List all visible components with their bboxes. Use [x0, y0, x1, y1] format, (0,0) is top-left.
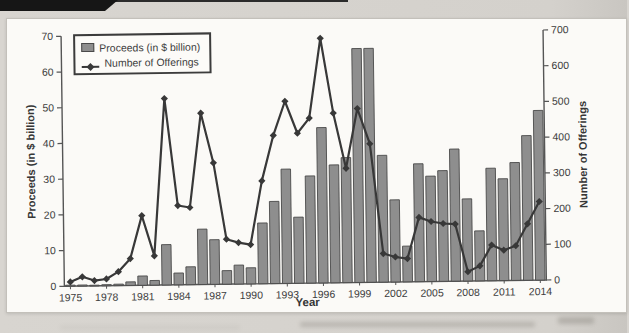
left-tick-label: 10: [44, 244, 56, 256]
proceeds-bar: [510, 162, 521, 280]
right-tick-label: 500: [552, 95, 570, 107]
right-axis-title: Number of Offerings: [576, 89, 590, 219]
legend-entry-offerings: Number of Offerings: [81, 53, 203, 70]
proceeds-bar: [258, 223, 268, 284]
x-tick-label: 1984: [167, 290, 191, 302]
proceeds-bar: [102, 285, 112, 286]
offerings-marker: [138, 212, 145, 219]
left-tick-label: 70: [41, 30, 53, 42]
proceeds-bar: [281, 169, 292, 283]
proceeds-bar: [498, 179, 509, 281]
left-tick-label: 40: [43, 137, 55, 149]
proceeds-bar: [138, 276, 148, 285]
x-tick-label: 1978: [95, 291, 119, 303]
x-tick-label: 2014: [529, 285, 553, 297]
right-axis-ticks: 0100200300400500600700: [543, 23, 572, 285]
offerings-marker: [270, 132, 277, 139]
x-tick-label: 1981: [131, 290, 155, 302]
proceeds-bar: [78, 285, 88, 286]
offerings-marker: [91, 277, 98, 284]
proceeds-bar: [522, 136, 533, 281]
proceeds-bar: [403, 246, 413, 282]
proceeds-bar: [269, 201, 280, 283]
x-tick-label: 1987: [203, 289, 227, 301]
legend-label-proceeds: Proceeds (in $ billion): [99, 40, 200, 53]
right-tick-label: 0: [554, 273, 560, 285]
offerings-marker: [174, 202, 181, 209]
offerings-marker: [281, 98, 288, 105]
left-tick-label: 60: [42, 66, 54, 78]
proceeds-bar: [150, 280, 160, 285]
right-tick-label: 300: [553, 166, 571, 178]
proceeds-bar: [329, 165, 340, 283]
blurred-caption-remnant: [300, 322, 535, 327]
offerings-marker: [197, 109, 204, 116]
proceeds-bar: [305, 176, 316, 283]
proceeds-bar: [114, 284, 124, 286]
left-tick-label: 30: [43, 173, 55, 185]
left-tick-label: 50: [42, 101, 54, 113]
x-tick-label: 2005: [420, 286, 444, 298]
offerings-marker: [79, 273, 86, 280]
proceeds-bar: [186, 267, 196, 285]
proceeds-bar: [162, 245, 172, 285]
proceeds-bar: [449, 149, 460, 281]
offerings-marker: [223, 236, 230, 243]
offerings-marker: [67, 278, 74, 285]
offerings-marker: [330, 109, 337, 116]
proceeds-bar: [317, 128, 329, 283]
proceeds-bar: [234, 265, 244, 284]
proceeds-bar: [341, 158, 352, 283]
right-tick-label: 200: [553, 202, 571, 214]
legend-label-offerings: Number of Offerings: [104, 55, 199, 68]
x-tick-label: 2008: [456, 286, 480, 298]
legend-entry-proceeds: Proceeds (in $ billion): [81, 38, 203, 55]
blurred-caption-remnant: [60, 326, 240, 329]
proceeds-bar: [364, 48, 377, 282]
proceeds-bars-series: [63, 46, 545, 286]
offerings-marker: [317, 35, 324, 42]
left-tick-label: 20: [44, 208, 56, 220]
left-tick-label: 0: [50, 280, 56, 292]
offerings-marker: [247, 241, 254, 248]
offerings-marker: [161, 95, 168, 102]
proceeds-bar: [126, 282, 136, 286]
proceeds-bar: [197, 229, 207, 284]
proceeds-bar: [475, 231, 485, 281]
x-tick-label: 2002: [384, 287, 408, 299]
offerings-marker: [235, 239, 242, 246]
right-tick-label: 400: [552, 130, 570, 142]
x-tick-label: 2011: [493, 285, 516, 297]
x-tick-label: 1975: [59, 291, 83, 303]
proceeds-bar: [533, 110, 545, 280]
right-tick-label: 700: [551, 23, 569, 35]
proceeds-bar: [414, 164, 425, 282]
blurred-caption-remnant: [558, 317, 594, 324]
chart-legend: Proceeds (in $ billion) Number of Offeri…: [73, 32, 212, 75]
offerings-marker: [151, 252, 158, 259]
bar-swatch-icon: [81, 43, 94, 52]
proceeds-bar: [352, 48, 365, 282]
proceeds-bar: [294, 217, 304, 283]
proceeds-bar: [222, 271, 232, 285]
proceeds-bar: [390, 200, 401, 282]
right-tick-label: 600: [551, 59, 569, 71]
chart-tilt-wrapper: 0102030405060700100200300400500600700197…: [4, 14, 629, 317]
offerings-marker: [186, 204, 193, 211]
proceeds-bar: [210, 240, 220, 285]
proceeds-bar: [426, 176, 437, 281]
proceeds-bar: [486, 168, 497, 281]
proceeds-bar: [174, 273, 184, 285]
line-marker-icon: [81, 57, 99, 67]
offerings-marker: [258, 177, 265, 184]
page-corner-tab: [0, 0, 118, 11]
offerings-marker: [210, 159, 217, 166]
proceeds-bar: [246, 268, 256, 284]
right-tick-label: 100: [554, 237, 572, 249]
proceeds-bar: [90, 285, 100, 286]
x-axis-title: Year: [238, 295, 378, 309]
left-axis-title: Proceeds (in $ billion): [24, 97, 38, 227]
chart-panel: 0102030405060700100200300400500600700197…: [6, 18, 627, 313]
